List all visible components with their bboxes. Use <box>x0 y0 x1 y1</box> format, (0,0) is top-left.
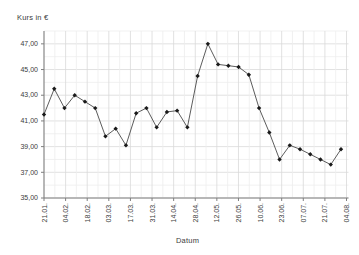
x-tick-label: 04.02. <box>62 203 69 223</box>
data-point-marker <box>42 112 46 116</box>
y-tick-label: 35,00 <box>20 194 38 201</box>
y-axis-title: Kurs in € <box>17 13 48 22</box>
x-tick-label: 31.03. <box>149 203 156 223</box>
y-tick-label: 47,00 <box>20 40 38 47</box>
data-point-marker <box>298 147 302 151</box>
x-tick-label: 26.05. <box>235 203 242 223</box>
data-point-marker <box>93 106 97 110</box>
data-point-marker <box>175 108 179 112</box>
x-tick-label: 21.01. <box>41 203 48 223</box>
data-point-marker <box>144 106 148 110</box>
stock-price-chart: Kurs in € 47,0045,0043,0041,0039,0037,00… <box>0 0 359 255</box>
data-point-marker <box>195 74 199 78</box>
data-point-marker <box>257 106 261 110</box>
y-tick-label: 43,00 <box>20 91 38 98</box>
x-tick-label: 21.07. <box>321 203 328 223</box>
x-tick-label: 23.06. <box>278 203 285 223</box>
x-tick-label: 28.04. <box>192 203 199 223</box>
y-tick-label: 45,00 <box>20 66 38 73</box>
x-tick-label: 17.03. <box>127 203 134 223</box>
data-point-marker <box>134 111 138 115</box>
x-tick-label: 03.03. <box>105 203 112 223</box>
x-tick-label: 07.07. <box>300 203 307 223</box>
data-point-marker <box>52 87 56 91</box>
data-point-marker <box>83 99 87 103</box>
x-tick-label: 18.02. <box>84 203 91 223</box>
y-tick-label: 39,00 <box>20 143 38 150</box>
y-tick-label: 41,00 <box>20 117 38 124</box>
x-tick-label: 10.06. <box>257 203 264 223</box>
data-point-marker <box>226 63 230 67</box>
x-tick-label: 12.05. <box>213 203 220 223</box>
data-point-marker <box>185 125 189 129</box>
x-axis-title: Datum <box>176 236 199 245</box>
data-point-marker <box>308 152 312 156</box>
data-point-marker <box>318 157 322 161</box>
chart-svg: 47,0045,0043,0041,0039,0037,0035,0021.01… <box>0 0 359 255</box>
x-tick-label: 04.08. <box>343 203 350 223</box>
y-tick-label: 37,00 <box>20 169 38 176</box>
x-tick-label: 14.04. <box>170 203 177 223</box>
